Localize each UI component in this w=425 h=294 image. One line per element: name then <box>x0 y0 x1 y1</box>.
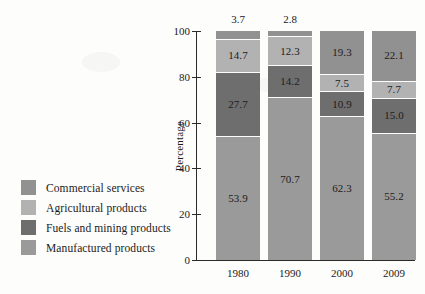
y-axis-tick-label: 100 <box>174 26 191 37</box>
bar-group[interactable]: 2.82.812.314.270.71990 <box>268 31 312 260</box>
bar-segment[interactable]: 15.0 <box>372 99 416 133</box>
bar-group[interactable]: 19.37.510.962.32000 <box>320 31 364 260</box>
bar-stack: 2.812.314.270.7 <box>268 31 312 260</box>
bar-segment[interactable]: 70.7 <box>268 98 312 260</box>
plot-area: Percentage 020406080100 3.73.714.727.753… <box>196 31 415 260</box>
bar-segment-label: 70.7 <box>280 174 300 185</box>
bar-segment[interactable]: 62.3 <box>320 117 364 260</box>
legend-item-label: Commercial services <box>46 182 145 194</box>
legend-item-fuels-and-mining-products[interactable]: Fuels and mining products <box>21 220 171 235</box>
bar-segment-label: 62.3 <box>332 183 352 194</box>
legend-item-agricultural-products[interactable]: Agricultural products <box>21 200 171 215</box>
bar-series-container: 3.73.714.727.753.919802.82.812.314.270.7… <box>196 31 415 260</box>
chart-legend: Commercial services Agricultural product… <box>21 180 171 255</box>
bar-stack: 3.714.727.753.9 <box>216 31 260 260</box>
bar-segment[interactable]: 27.7 <box>216 73 260 136</box>
bar-segment[interactable]: 22.1 <box>372 31 416 82</box>
stacked-bar-chart: Commercial services Agricultural product… <box>0 0 425 294</box>
bar-segment-label: 53.9 <box>228 193 248 204</box>
bar-top-label: 2.8 <box>268 13 312 25</box>
bar-segment-label: 7.5 <box>335 78 349 89</box>
y-axis-tick-label: 60 <box>179 117 190 128</box>
bar-segment[interactable]: 55.2 <box>372 134 416 260</box>
bar-segment-label: 19.3 <box>332 47 352 58</box>
legend-swatch-icon <box>21 220 36 235</box>
bar-group[interactable]: 22.17.715.055.22009 <box>372 31 416 260</box>
y-axis-tick-inner <box>197 260 201 261</box>
legend-item-label: Manufactured products <box>46 242 155 254</box>
bar-segment[interactable]: 7.7 <box>372 82 416 100</box>
bar-group[interactable]: 3.73.714.727.753.91980 <box>216 31 260 260</box>
legend-swatch-icon <box>21 180 36 195</box>
bar-segment[interactable]: 10.9 <box>320 92 364 117</box>
legend-swatch-icon <box>21 200 36 215</box>
y-axis-tick-label: 40 <box>179 163 190 174</box>
x-axis-tick-label: 1990 <box>268 267 312 279</box>
x-axis-tick-label: 2000 <box>320 267 364 279</box>
bar-segment[interactable]: 3.7 <box>216 31 260 39</box>
x-axis-tick-label: 2009 <box>372 267 416 279</box>
bar-segment[interactable]: 7.5 <box>320 75 364 92</box>
bar-segment[interactable]: 14.2 <box>268 66 312 99</box>
legend-item-manufactured-products[interactable]: Manufactured products <box>21 240 171 255</box>
y-axis-tick-label: 80 <box>179 71 190 82</box>
legend-swatch-icon <box>21 240 36 255</box>
bar-top-label: 3.7 <box>216 13 260 25</box>
bar-segment[interactable]: 12.3 <box>268 37 312 65</box>
bar-segment-label: 14.2 <box>280 76 300 87</box>
bar-segment[interactable]: 14.7 <box>216 40 260 74</box>
legend-item-commercial-services[interactable]: Commercial services <box>21 180 171 195</box>
bar-segment-label: 12.3 <box>280 46 300 57</box>
scan-artifact <box>82 52 120 72</box>
bar-segment-label: 7.7 <box>387 84 401 95</box>
bar-stack: 19.37.510.962.3 <box>320 31 364 260</box>
bar-segment-label: 14.7 <box>228 50 248 61</box>
x-axis-tick-label: 1980 <box>216 267 260 279</box>
legend-item-label: Agricultural products <box>46 202 147 214</box>
x-axis-line <box>196 260 415 261</box>
bar-segment[interactable]: 19.3 <box>320 31 364 75</box>
bar-segment-label: 22.1 <box>384 50 404 61</box>
bar-segment-label: 55.2 <box>384 191 404 202</box>
bar-segment-label: 27.7 <box>228 99 248 110</box>
bar-segment[interactable]: 53.9 <box>216 137 260 260</box>
bar-stack: 22.17.715.055.2 <box>372 31 416 260</box>
y-axis-tick-label: 0 <box>185 255 191 266</box>
y-axis-tick-label: 20 <box>179 209 190 220</box>
bar-segment-label: 10.9 <box>332 99 352 110</box>
bar-segment-label: 15.0 <box>384 110 404 121</box>
legend-item-label: Fuels and mining products <box>46 222 171 234</box>
